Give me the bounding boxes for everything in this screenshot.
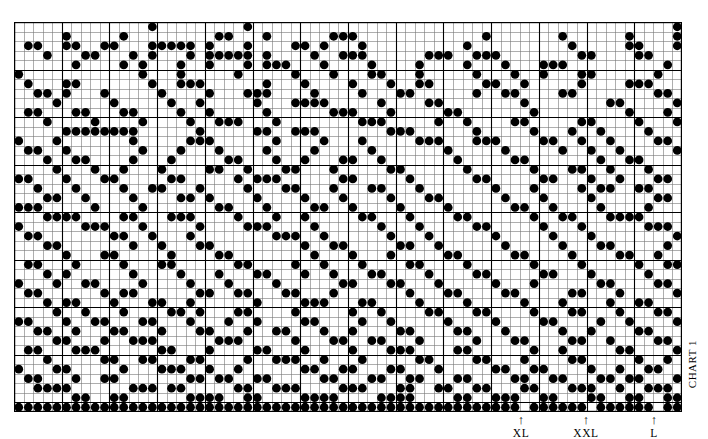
size-marker-label: XL <box>501 427 541 439</box>
size-marker-label: XXL <box>566 427 606 439</box>
size-marker-label: L <box>634 427 674 439</box>
stitch-chart-grid <box>14 22 682 412</box>
up-arrow-icon: ↑ <box>501 414 541 426</box>
size-marker-l: ↑ L <box>634 414 674 439</box>
chart-canvas <box>14 22 682 412</box>
up-arrow-icon: ↑ <box>566 414 606 426</box>
size-marker-xxl: ↑ XXL <box>566 414 606 439</box>
size-marker-xl: ↑ XL <box>501 414 541 439</box>
chart-page: ↑ XL ↑ XXL ↑ L CHART 1 <box>0 0 708 439</box>
up-arrow-icon: ↑ <box>634 414 674 426</box>
chart-title: CHART 1 <box>686 340 700 420</box>
